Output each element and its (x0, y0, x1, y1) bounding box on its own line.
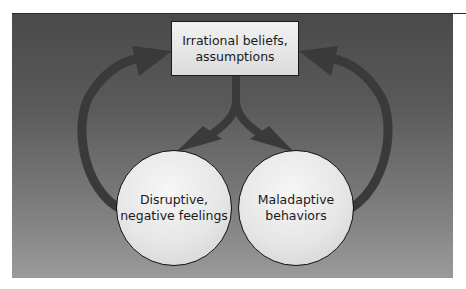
node-irrational-beliefs: Irrational beliefs, assumptions (171, 21, 299, 76)
node-top-line1: Irrational beliefs, (182, 33, 288, 49)
node-top-line2: assumptions (182, 49, 288, 65)
arrow-beliefs-split (176, 76, 294, 152)
node-right-line2: behaviors (258, 208, 335, 224)
node-negative-feelings: Disruptive, negative feelings (116, 150, 232, 266)
node-left-line1: Disruptive, (120, 192, 228, 208)
node-left-line2: negative feelings (120, 208, 228, 224)
node-maladaptive-behaviors: Maladaptive behaviors (238, 150, 354, 266)
node-right-line1: Maladaptive (258, 192, 335, 208)
